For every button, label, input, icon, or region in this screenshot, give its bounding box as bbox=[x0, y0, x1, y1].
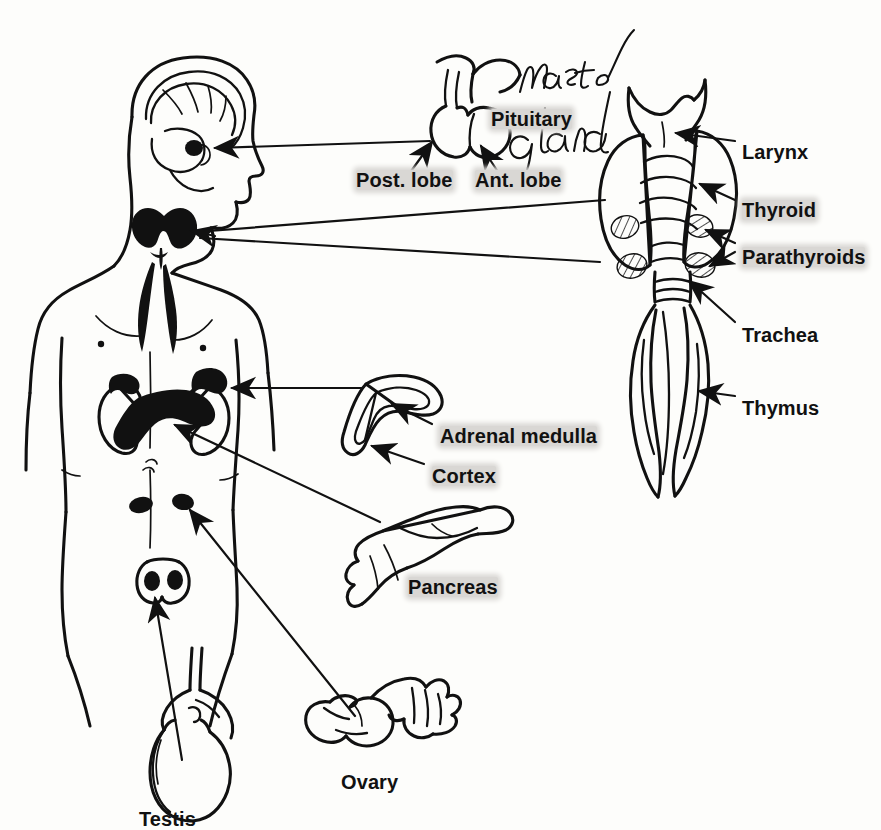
label-cortex: Cortex bbox=[432, 466, 496, 486]
label-adrenal-medulla: Adrenal medulla bbox=[440, 426, 597, 446]
label-larynx: Larynx bbox=[742, 142, 808, 162]
label-post-lobe: Post. lobe bbox=[356, 170, 453, 190]
ovaries-in-pelvis bbox=[128, 492, 196, 515]
thyroid-in-neck bbox=[132, 208, 197, 270]
label-pancreas: Pancreas bbox=[408, 577, 498, 597]
pancreas-in-abdomen bbox=[113, 389, 215, 472]
testes-in-scrotum bbox=[137, 559, 189, 603]
thymus-in-chest bbox=[138, 252, 177, 354]
label-testis: Testis bbox=[139, 809, 196, 829]
parathyroids-glands bbox=[608, 212, 717, 282]
label-thymus: Thymus bbox=[742, 398, 819, 418]
label-ant-lobe: Ant. lobe bbox=[475, 170, 561, 190]
adrenal-inset bbox=[232, 376, 442, 464]
ovary-inset bbox=[190, 510, 461, 746]
label-thyroid: Thyroid bbox=[742, 200, 816, 220]
label-ovary: Ovary bbox=[341, 772, 398, 792]
testis-inset bbox=[150, 598, 233, 821]
label-parathyroids: Parathyroids bbox=[742, 247, 865, 267]
endocrine-diagram: .ink{fill:none;stroke:#111;stroke-width:… bbox=[0, 0, 881, 830]
label-trachea: Trachea bbox=[742, 325, 818, 345]
human-figure bbox=[26, 57, 274, 726]
pituitary-in-head bbox=[185, 140, 203, 156]
